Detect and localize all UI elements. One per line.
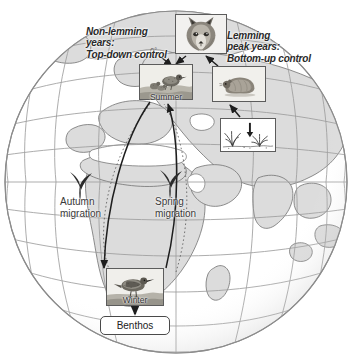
- lemming-icon: [213, 67, 265, 102]
- plants-to-lemming-arrow: [230, 105, 240, 117]
- arctic-migration-figure: 0°: [0, 0, 355, 363]
- non-lemming-line-2: years:: [86, 37, 167, 48]
- benthos-label-box: Benthos: [100, 316, 170, 335]
- spring-line-2: migration: [155, 208, 196, 220]
- non-lemming-line-1: Non-lemming: [86, 26, 167, 37]
- spring-migration-label: Spring migration: [155, 196, 196, 220]
- lemming-line-2: peak years:: [227, 41, 311, 52]
- summer-caption: Summer: [139, 92, 193, 102]
- non-lemming-years-label: Non-lemming years: Top-down control: [86, 26, 167, 60]
- spring-migration-path: [164, 104, 187, 272]
- tundra-vegetation-box: [220, 118, 276, 152]
- lemming-line-3: Bottom-up control: [227, 53, 311, 64]
- autumn-line-2: migration: [60, 208, 101, 220]
- non-lemming-line-3: Top-down control: [86, 49, 167, 60]
- autumn-migration-path: [104, 104, 150, 276]
- tundra-vegetation-icon: [221, 119, 275, 152]
- autumn-migration-label: Autumn migration: [60, 196, 101, 220]
- spring-line-1: Spring: [155, 196, 196, 208]
- lemming-peak-years-label: Lemming peak years: Bottom-up control: [227, 30, 311, 64]
- lemming-to-fox-arrow: [206, 56, 218, 66]
- winter-caption: Winter: [106, 295, 164, 305]
- arctic-fox-face-icon: [176, 15, 226, 53]
- lemming-photo-box: [212, 66, 266, 102]
- spring-migration-bird: [160, 170, 182, 199]
- benthos-label: Benthos: [101, 317, 169, 334]
- autumn-line-1: Autumn: [60, 196, 101, 208]
- lemming-line-1: Lemming: [227, 30, 311, 41]
- fox-to-summer-arrow: [176, 56, 186, 64]
- autumn-migration-arrow: [104, 102, 150, 268]
- arctic-fox-photo-box: [175, 14, 227, 54]
